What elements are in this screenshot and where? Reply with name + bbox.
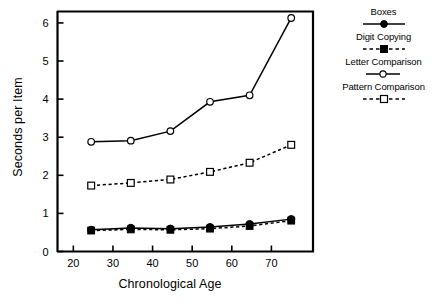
data-point [167,128,174,135]
legend-swatch-solid-line-filled-circle [351,18,417,29]
y-tick-label: 5 [42,55,48,67]
legend-label-pattern-comparison: Pattern Comparison [342,81,425,93]
legend-entry-digit-copying: Digit Copying [351,31,417,54]
legend-entry-boxes: Boxes [351,6,417,29]
figure-container: 0123456 203040506070 Chronological Age S… [0,0,437,308]
data-point [88,227,95,234]
y-tick-label: 2 [42,169,48,181]
series-boxes [88,216,295,234]
data-point [246,159,253,166]
chart-legend: Boxes Digit Copying Letter Comparison Pa… [330,6,437,106]
data-point [88,182,95,189]
series-line [91,18,291,142]
data-point [167,176,174,183]
legend-swatch-dashed-line-filled-square [351,43,417,54]
series-digit-copying [88,217,295,234]
legend-label-boxes: Boxes [371,6,397,18]
data-point [288,217,295,224]
y-tick-label: 1 [42,207,48,219]
x-tick-label: 50 [186,257,198,269]
legend-label-letter-comparison: Letter Comparison [345,56,421,68]
data-point [288,15,295,22]
series-pattern-comparison [88,141,295,189]
y-axis-tick-labels: 0123456 [42,17,48,258]
data-point [246,92,253,99]
x-tick-label: 60 [226,257,238,269]
y-tick-label: 0 [42,246,48,258]
legend-swatch-dashed-line-open-square [351,93,417,104]
y-axis-title: Seconds per Item [11,47,25,207]
x-axis-tick-labels: 203040506070 [67,257,277,269]
legend-entry-letter-comparison: Letter Comparison [345,56,421,79]
x-tick-label: 70 [265,257,277,269]
data-point [246,223,253,230]
data-point [127,137,134,144]
data-series-layer [88,15,295,234]
legend-swatch-solid-line-open-circle [350,68,416,79]
data-point [288,141,295,148]
data-point [127,180,134,187]
data-point [207,168,214,175]
legend-label-digit-copying: Digit Copying [356,31,411,43]
x-tick-label: 40 [146,257,158,269]
y-tick-label: 3 [42,131,48,143]
data-point [88,138,95,145]
data-point [207,98,214,105]
x-tick-label: 20 [67,257,79,269]
series-line [91,145,291,186]
series-letter-comparison [88,15,295,145]
legend-entry-pattern-comparison: Pattern Comparison [342,81,425,104]
x-tick-label: 30 [107,257,119,269]
data-point [207,225,214,232]
x-axis-title: Chronological Age [0,277,340,291]
y-tick-label: 6 [42,17,48,29]
data-point [127,226,134,233]
data-point [167,226,174,233]
y-tick-label: 4 [42,93,48,105]
